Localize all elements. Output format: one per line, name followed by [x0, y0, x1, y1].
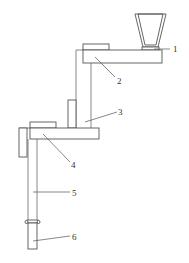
callout-5: 5: [72, 188, 77, 198]
column-side-block: [68, 100, 76, 128]
upper-rod-assembly: [28, 139, 37, 220]
mechanical-diagram: 1 2 3 4 5 6: [0, 0, 189, 263]
lower-arm-top-block: [30, 122, 56, 128]
coupling-pin-left: [25, 221, 28, 224]
leader-6: [33, 236, 70, 241]
side-plate: [19, 128, 27, 157]
callout-labels: 1 2 3 4 5 6: [71, 44, 178, 242]
lower-arm: [30, 128, 99, 139]
lower-rod: [28, 223, 37, 249]
leader-3: [85, 112, 117, 122]
callout-3: 3: [118, 107, 123, 117]
callout-1: 1: [173, 44, 178, 54]
hopper: [135, 14, 166, 50]
coupling-pin-right: [37, 221, 40, 224]
lower-arm-assembly: [19, 122, 99, 157]
upper-arm-top-block: [83, 44, 109, 50]
callout-6: 6: [72, 232, 77, 242]
callout-2: 2: [117, 76, 122, 86]
leader-lines: [33, 49, 170, 241]
hopper-outlet: [142, 47, 159, 50]
hopper-outer: [135, 14, 166, 47]
callout-4: 4: [71, 160, 76, 170]
upper-arm: [83, 50, 162, 63]
